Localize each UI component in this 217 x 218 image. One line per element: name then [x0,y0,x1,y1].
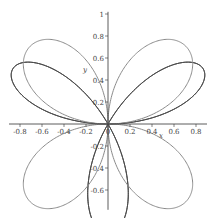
x-tick-label: -0.8 [13,128,27,136]
x-tick-label: -0.4 [57,128,71,136]
x-tick-label: -0.6 [35,128,49,136]
x-axis-label: x [159,132,163,140]
x-tick-label: 0 [106,128,110,136]
x-tick-label: 0.8 [190,128,201,136]
y-axis-label: y [82,66,88,74]
y-tick-label: 0.2 [93,99,104,107]
y-tick-label: 0.6 [93,55,105,63]
y-tick-label: -0.4 [91,165,105,173]
y-tick-label: 1 [100,11,104,19]
x-tick-label: -0.2 [79,128,93,136]
y-tick-label: -0.2 [91,143,105,151]
axes [9,12,207,210]
y-tick-label: -0.6 [91,187,105,195]
x-tick-label: 0.6 [168,128,180,136]
x-tick-label: 0.2 [124,128,135,136]
y-tick-label: 0.8 [93,33,104,41]
x-tick-label: 0.4 [146,128,158,136]
polar-rose-plot: -0.8-0.6-0.4-0.200.20.40.60.8 -0.6-0.4-0… [0,0,217,218]
y-tick-label: 0.4 [93,77,105,85]
